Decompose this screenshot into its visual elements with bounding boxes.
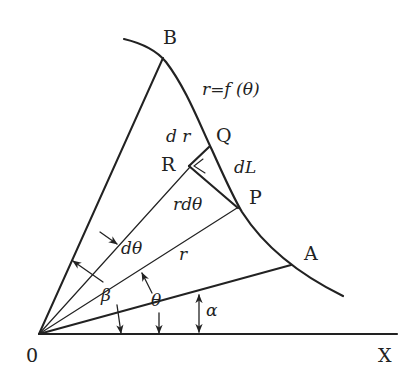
label-dl: dL [234,157,256,177]
label-r-point: R [161,153,176,175]
label-rdtheta: rdθ [173,194,202,214]
label-q: Q [216,124,232,146]
ray-or [39,167,190,334]
label-dtheta: dθ [121,238,142,258]
label-r: r [179,244,188,264]
dtheta-arrow [100,232,117,244]
label-p: P [249,186,262,208]
segment-qr [189,147,209,166]
label-alpha: α [206,300,218,320]
label-b: B [163,26,177,48]
polar-arc-length-diagram: B r=f (θ) d r Q R dL P rdθ dθ r A β θ α … [0,0,414,379]
curve-equation: r=f (θ) [202,79,260,99]
label-beta: β [100,285,111,305]
label-theta: θ [151,290,161,310]
label-a: A [303,242,318,264]
label-x-axis: X [378,344,392,366]
label-dr: d r [166,126,191,146]
beta-arrow-down [117,305,121,333]
ray-oa [39,265,291,334]
beta-arrow-up [73,261,103,282]
label-origin: 0 [26,344,38,366]
